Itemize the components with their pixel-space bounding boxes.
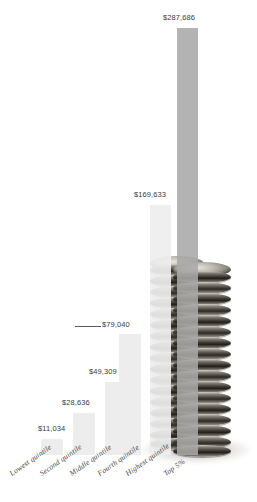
value-label-highest-quintile: $169,633: [134, 190, 166, 199]
bar-fourth-quintile: [119, 334, 141, 455]
income-by-quintile-bar-chart: $11,034 $28,636 $49,309 $79,040 $169,633…: [0, 0, 257, 502]
leader-line-fourth-quintile: [75, 326, 101, 327]
value-label-top-5-percent: $287,686: [163, 13, 195, 22]
bar-top-5-percent: [177, 28, 198, 455]
value-label-fourth-quintile: $79,040: [102, 320, 130, 329]
value-label-second-quintile: $28,636: [62, 398, 90, 407]
value-label-lowest-quintile: $11,034: [38, 424, 65, 433]
bar-highest-quintile: [150, 205, 171, 455]
value-label-middle-quintile: $49,309: [89, 367, 117, 376]
